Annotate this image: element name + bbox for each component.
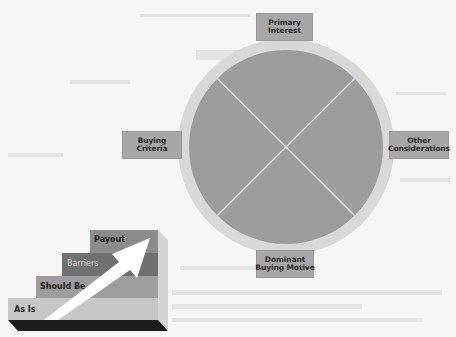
label-primary-interest-line2: Interest <box>268 27 301 35</box>
staircase-graphic: Payout Barriers Should Be As Is <box>0 225 180 337</box>
label-buying-criteria-line2: Criteria <box>137 145 168 153</box>
step-label-barriers: Barriers <box>67 259 98 268</box>
staircase-shapes <box>0 225 180 337</box>
step-label-payout: Payout <box>94 235 125 244</box>
label-primary-interest: Primary Interest <box>256 13 313 41</box>
step-label-should-be: Should Be <box>40 282 85 291</box>
label-other-considerations: Other Considerations <box>389 131 449 159</box>
step-label-as-is: As Is <box>14 305 35 314</box>
label-buying-criteria: Buying Criteria <box>122 131 182 159</box>
label-dominant-buying-motive: Dominant Buying Motive <box>256 250 314 278</box>
staircase-side <box>158 230 168 330</box>
buying-motive-wheel <box>178 39 394 255</box>
label-other-considerations-line2: Considerations <box>388 145 450 153</box>
label-dominant-buying-motive-line2: Buying Motive <box>255 264 314 272</box>
staircase-base <box>8 320 168 331</box>
